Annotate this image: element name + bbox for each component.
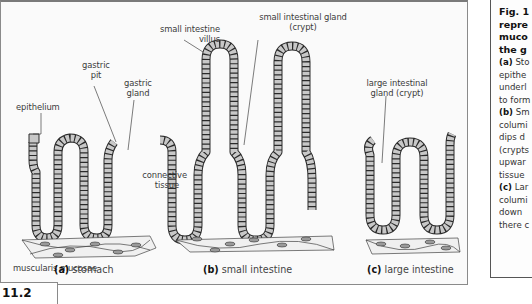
- caption-line: tissue: [499, 169, 532, 182]
- caption-line: underl: [499, 81, 532, 94]
- label-gastric-gland-line2: gland: [118, 88, 158, 98]
- caption-c-name: large intestine: [385, 264, 454, 275]
- label-large-gland-line1: large intestinal: [362, 78, 432, 88]
- caption-line: to form: [499, 94, 532, 107]
- label-small-gland-line1: small intestinal gland: [248, 12, 358, 22]
- label-gastric-pit: gastric pit: [76, 60, 116, 80]
- label-small-intestine-villus: small intestine villus: [150, 24, 220, 44]
- large-intestine-epithelium: [369, 134, 452, 230]
- label-small-intestinal-gland: small intestinal gland (crypt): [248, 12, 358, 32]
- label-villus-line2: villus: [150, 34, 220, 44]
- caption-b: (b) small intestine: [203, 264, 292, 275]
- figure-caption-panel: Fig. 1 repre muco the g (a) Sto epithe u…: [490, 0, 532, 278]
- caption-c: (c) large intestine: [367, 264, 454, 275]
- caption-line: upwar: [499, 156, 532, 169]
- figure-number: 11.2: [0, 282, 58, 304]
- label-gastric-pit-line2: pit: [76, 70, 116, 80]
- caption-line: (a) Sto: [499, 56, 532, 69]
- label-connective-tissue-line2: tissue: [137, 180, 187, 190]
- caption-line: (crypts: [499, 144, 532, 157]
- label-connective-tissue-line1: connective: [137, 170, 187, 180]
- label-gastric-gland: gastric gland: [118, 78, 158, 98]
- mucosa-diagram: [0, 0, 470, 285]
- caption-line: (c) Lar: [499, 181, 532, 194]
- caption-line: epithe: [499, 69, 532, 82]
- caption-line: (b) Sm: [499, 106, 532, 119]
- caption-b-letter: (b): [203, 264, 219, 275]
- caption-line: columi: [499, 194, 532, 207]
- label-large-intestinal-gland: large intestinal gland (crypt): [362, 78, 432, 98]
- caption-line: dips d: [499, 131, 532, 144]
- label-gastric-gland-line1: gastric: [118, 78, 158, 88]
- caption-c-letter: (c): [367, 264, 381, 275]
- label-connective-tissue: connective tissue: [137, 170, 187, 190]
- label-villus-line1: small intestine: [150, 24, 220, 34]
- caption-line: columi: [499, 119, 532, 132]
- label-epithelium: epithelium: [16, 102, 60, 112]
- caption-b-name: small intestine: [222, 264, 292, 275]
- caption-a-name: stomach: [72, 264, 113, 275]
- label-large-gland-line2: gland (crypt): [362, 88, 432, 98]
- caption-title-line: muco: [499, 31, 532, 44]
- small-intestine-epithelium: [160, 44, 312, 240]
- label-gastric-pit-line1: gastric: [76, 60, 116, 70]
- label-small-gland-line2: (crypt): [248, 22, 358, 32]
- caption-a: (a) stomach: [54, 264, 114, 275]
- caption-title-line: the g: [499, 44, 532, 57]
- caption-a-letter: (a): [54, 264, 69, 275]
- caption-line: down: [499, 206, 532, 219]
- caption-title-line: Fig. 1: [499, 6, 532, 19]
- stomach-epithelium: [29, 134, 114, 238]
- caption-title-line: repre: [499, 19, 532, 32]
- muscularis-mucosae: [22, 236, 460, 258]
- caption-line: there c: [499, 219, 532, 232]
